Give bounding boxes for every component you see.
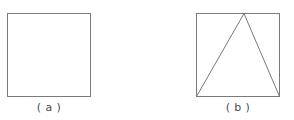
figure-a-caption: ( a ) [7, 100, 91, 116]
square-outline-a [8, 14, 91, 97]
figure-board: ( a ) ( b ) [0, 0, 294, 120]
inscribed-triangle-b [197, 14, 280, 97]
figure-b-group: ( b ) [147, 0, 294, 120]
figure-a-group: ( a ) [0, 0, 147, 120]
figure-b-caption: ( b ) [196, 100, 280, 116]
square-outline-b [197, 14, 280, 97]
